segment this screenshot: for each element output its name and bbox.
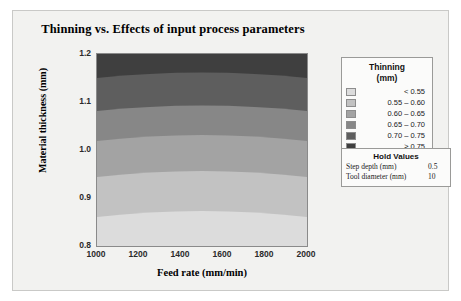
hold-value-amount: 10 xyxy=(428,172,446,181)
x-tick-label: 1000 xyxy=(76,249,116,259)
legend-item: 0.70 – 0.75 xyxy=(346,130,428,141)
y-tick-label: 1.1 xyxy=(61,96,91,106)
legend-swatch-icon xyxy=(346,88,356,96)
y-tick-label: 0.9 xyxy=(61,192,91,202)
legend-item: < 0.55 xyxy=(346,86,428,97)
legend-swatch-icon xyxy=(346,99,356,107)
y-axis-label: Material thickness (mm) xyxy=(37,36,48,206)
x-tick-label: 1200 xyxy=(118,249,158,259)
legend-item-label: 0.65 – 0.70 xyxy=(359,120,428,129)
legend-swatch-icon xyxy=(346,132,356,140)
legend-title-line1: Thinning xyxy=(346,62,428,73)
hold-value-amount: 0.5 xyxy=(428,162,446,171)
hold-value-name: Step depth (mm) xyxy=(346,162,428,171)
legend: Thinning (mm) < 0.55 0.55 – 0.60 0.60 – … xyxy=(341,57,433,158)
x-axis-label: Feed rate (mm/min) xyxy=(96,267,308,278)
hold-values-row: Tool diameter (mm) 10 xyxy=(346,172,446,182)
x-tick-label: 1400 xyxy=(160,249,200,259)
hold-values-box: Hold Values Step depth (mm) 0.5 Tool dia… xyxy=(341,148,451,187)
legend-item-label: 0.55 – 0.60 xyxy=(359,98,428,107)
hold-value-name: Tool diameter (mm) xyxy=(346,172,428,181)
legend-item: 0.55 – 0.60 xyxy=(346,97,428,108)
contour-plot-area xyxy=(96,53,308,247)
contour-band-1 xyxy=(97,211,307,246)
hold-values-title: Hold Values xyxy=(346,152,446,162)
legend-item-label: 0.70 – 0.75 xyxy=(359,131,428,140)
legend-rows: < 0.55 0.55 – 0.60 0.60 – 0.65 0.65 – 0.… xyxy=(346,86,428,152)
y-tick-label: 1.2 xyxy=(61,48,91,58)
legend-item: 0.60 – 0.65 xyxy=(346,108,428,119)
x-tick-label: 1600 xyxy=(202,249,242,259)
legend-swatch-icon xyxy=(346,121,356,129)
x-tick-label: 2000 xyxy=(286,249,326,259)
chart-figure: Thinning vs. Effects of input process pa… xyxy=(12,10,449,291)
x-tick-label: 1800 xyxy=(244,249,284,259)
y-tick-label: 1.0 xyxy=(61,144,91,154)
hold-values-row: Step depth (mm) 0.5 xyxy=(346,162,446,172)
legend-title-line2: (mm) xyxy=(346,73,428,84)
legend-item-label: 0.60 – 0.65 xyxy=(359,109,428,118)
chart-title: Thinning vs. Effects of input process pa… xyxy=(13,22,333,37)
legend-item-label: < 0.55 xyxy=(359,87,428,96)
legend-item: 0.65 – 0.70 xyxy=(346,119,428,130)
legend-swatch-icon xyxy=(346,110,356,118)
contour-bands xyxy=(97,54,307,246)
